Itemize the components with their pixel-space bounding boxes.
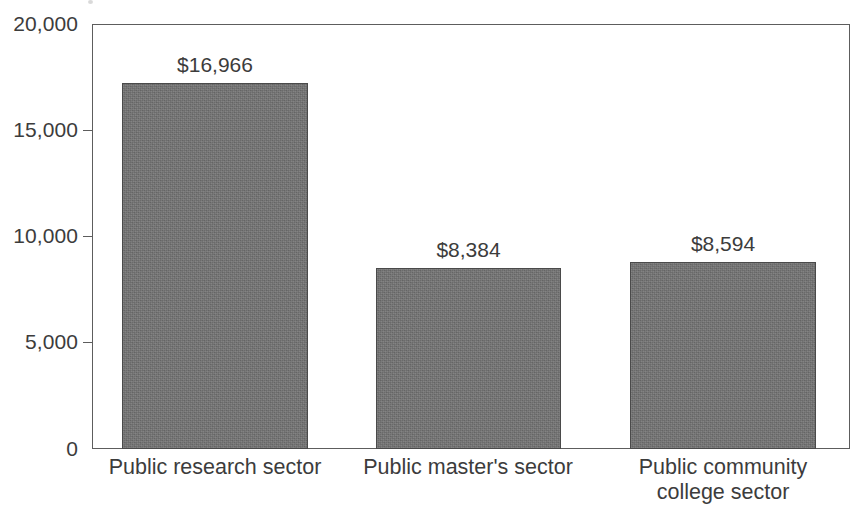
bar-value-label-public-masters-sector: $8,384: [376, 239, 561, 260]
y-axis-tick-label-5000: 5,000: [4, 331, 78, 352]
x-axis-category-label-public-masters-sector: Public master's sector: [345, 455, 591, 480]
bar-public-research-sector[interactable]: [122, 83, 308, 449]
y-axis-tick-label-20000: 20,000: [4, 13, 78, 34]
x-axis-category-label-public-community-college-sector: Public community college sector: [600, 455, 846, 505]
cropped-title-artifact: [88, 0, 93, 4]
y-axis-tick-label-15000: 15,000: [4, 119, 78, 140]
y-axis-tick-label-10000: 10,000: [4, 225, 78, 246]
bar-chart: 20,000 15,000 10,000 5,000 0 $16,966 $8,…: [0, 0, 868, 519]
y-axis-tick-label-0: 0: [4, 438, 78, 459]
bar-value-label-public-research-sector: $16,966: [122, 54, 308, 75]
bar-public-masters-sector[interactable]: [376, 268, 561, 449]
bar-value-label-public-community-college-sector: $8,594: [630, 233, 816, 254]
x-axis-category-label-public-research-sector: Public research sector: [92, 455, 338, 480]
bar-public-community-college-sector[interactable]: [630, 262, 816, 449]
